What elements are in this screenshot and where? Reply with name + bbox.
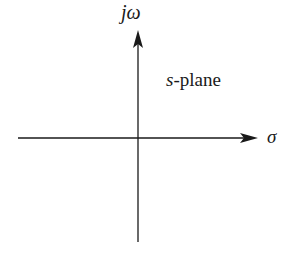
- horizontal-axis-label: σ: [267, 127, 276, 146]
- s-plane-figure: jω σ s-plane: [0, 0, 296, 253]
- vertical-axis-label: jω: [121, 2, 141, 22]
- s-plane-suffix: -plane: [173, 69, 220, 90]
- s-plane-annotation: s-plane: [166, 70, 221, 89]
- axes-group: [0, 0, 296, 253]
